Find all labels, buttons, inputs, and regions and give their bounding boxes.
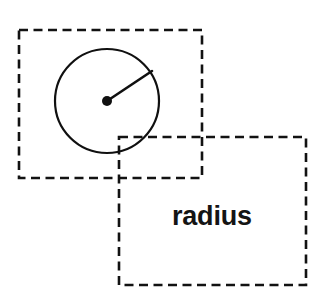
radius-label: radius — [172, 203, 252, 230]
diagram-canvas: radius — [0, 0, 329, 306]
radius-diagram-svg — [0, 0, 329, 306]
radius-segment — [107, 71, 152, 101]
circle-center-dot — [102, 96, 112, 106]
